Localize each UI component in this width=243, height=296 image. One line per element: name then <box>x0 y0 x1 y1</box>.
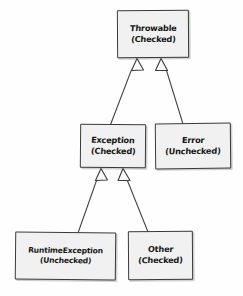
node-error-kind: (Unchecked) <box>165 146 221 156</box>
node-exception-name: Exception <box>91 136 135 146</box>
node-other[interactable]: Other (Checked) <box>128 231 193 280</box>
node-error[interactable]: Error (Unchecked) <box>155 123 231 170</box>
node-runtimeexception-name: RuntimeException <box>28 246 104 256</box>
node-throwable[interactable]: Throwable (Checked) <box>117 10 189 58</box>
edge-runtimeexception-to-exception <box>78 169 108 234</box>
node-runtimeexception[interactable]: RuntimeException (Unchecked) <box>15 231 116 280</box>
node-error-name: Error <box>181 136 204 146</box>
node-other-name: Other <box>148 245 174 255</box>
diagram-canvas: Throwable (Checked) Exception (Checked) … <box>0 0 243 296</box>
edge-other-to-exception <box>118 169 148 233</box>
node-exception-kind: (Checked) <box>90 146 135 156</box>
edge-error-to-throwable <box>156 59 184 125</box>
node-exception[interactable]: Exception (Checked) <box>80 124 146 169</box>
node-runtimeexception-kind: (Unchecked) <box>39 256 91 265</box>
node-throwable-name: Throwable <box>129 24 176 34</box>
edge-exception-to-throwable <box>110 59 144 127</box>
node-throwable-kind: (Checked) <box>130 34 175 44</box>
node-other-kind: (Checked) <box>138 256 183 266</box>
